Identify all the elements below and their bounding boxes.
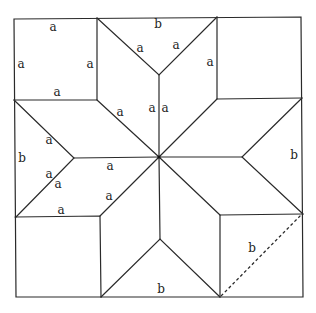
label-b: b <box>157 282 165 296</box>
label-a: a <box>49 20 56 34</box>
label-a: a <box>106 159 113 173</box>
label-a: a <box>45 133 52 147</box>
label-a: a <box>161 101 168 115</box>
bottom-left-square <box>15 216 101 297</box>
label-a: a <box>86 57 93 71</box>
label-a: a <box>148 101 155 115</box>
spoke-down <box>159 157 160 239</box>
center-point <box>157 155 160 158</box>
label-a: a <box>116 105 123 119</box>
label-b: b <box>290 148 298 162</box>
label-a: a <box>54 177 61 191</box>
label-b: b <box>18 151 26 165</box>
quilt-star-diagram: a a a a b a a a a a a a b a a a a a b b … <box>0 0 316 313</box>
label-a: a <box>17 57 24 71</box>
label-a: a <box>53 85 60 99</box>
dashed-diagonal <box>221 214 302 296</box>
spoke-left <box>74 157 159 158</box>
top-right-square <box>217 17 302 99</box>
label-b: b <box>248 241 256 255</box>
label-a: a <box>206 55 213 69</box>
label-b: b <box>154 17 162 31</box>
spoke-down-right <box>159 157 220 215</box>
label-a: a <box>136 41 143 55</box>
label-a: a <box>172 38 179 52</box>
label-a: a <box>105 189 112 203</box>
label-a: a <box>45 167 52 181</box>
label-a: a <box>57 203 64 217</box>
